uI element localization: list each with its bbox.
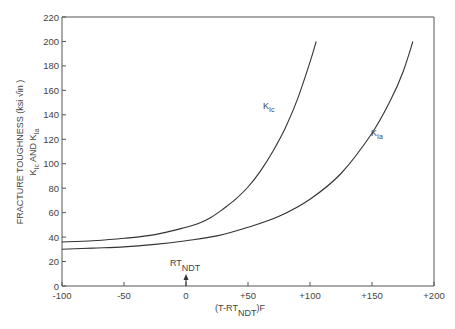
y-tick-label: 160 [43,85,59,96]
kia-curve [62,42,413,250]
x-axis-title: (T-RTNDT)F [215,303,265,318]
y-tick-label: 40 [48,232,59,243]
x-tick-label: -50 [117,290,131,301]
svg-text:KIc AND KIa: KIc AND KIa [28,128,40,175]
svg-text:FRACTURE TOUGHNESS (ksi √in ): FRACTURE TOUGHNESS (ksi √in ) [15,80,25,225]
x-tick-label: -100 [52,290,71,301]
plot-frame [62,17,434,286]
y-tick-label: 60 [48,207,59,218]
kia-label: KIa [371,128,383,140]
y-tick-label: 200 [43,36,59,47]
y-tick-label: 100 [43,158,59,169]
x-tick-label: 0 [183,290,188,301]
kic-curve [62,42,316,243]
y-axis-title: FRACTURE TOUGHNESS (ksi √in ) KIc AND KI… [15,80,40,225]
fracture-toughness-chart: 020406080100120140160180200220 -100-500+… [0,0,455,329]
y-tick-label: 220 [43,12,59,23]
x-tick-label: +200 [423,290,444,301]
x-axis-ticks: -100-500+50+100+150+200 [52,282,444,301]
y-tick-label: 120 [43,134,59,145]
kic-label: KIc [263,101,275,113]
x-tick-label: +100 [299,290,320,301]
x-tick-label: +150 [361,290,382,301]
y-tick-label: 140 [43,109,59,120]
rtndt-arrow-icon [184,274,189,286]
y-tick-label: 180 [43,60,59,71]
y-tick-label: 20 [48,256,59,267]
x-tick-label: +50 [240,290,256,301]
y-tick-label: 80 [48,183,59,194]
rtndt-annotation: RTNDT [170,258,201,273]
